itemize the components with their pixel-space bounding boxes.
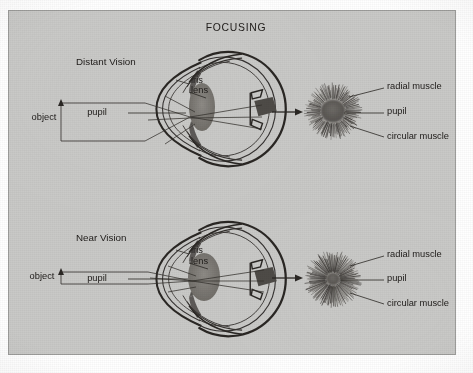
object-marker-distant	[58, 99, 145, 141]
label-pupil-front-distant: pupil	[387, 106, 407, 116]
callout-circular-muscle-near: circular muscle	[350, 293, 449, 308]
label-pupil-front-near: pupil	[387, 273, 407, 283]
transfer-arrow-distant	[272, 109, 303, 116]
pupil-shape-distant	[321, 100, 346, 123]
figure-title: FOCUSING	[206, 22, 266, 33]
section-label-near-vision: Near Vision	[76, 232, 126, 243]
iris-front-view-distant	[304, 83, 362, 140]
label-object-distant: object	[32, 112, 57, 122]
transfer-arrow-near	[272, 275, 303, 282]
eye-cross-section-distant	[156, 52, 285, 166]
pupil-shape-near	[326, 273, 340, 286]
callout-pupil-distant: pupil	[87, 107, 186, 117]
label-circular-muscle-near: circular muscle	[387, 298, 449, 308]
label-iris-distant: iris	[191, 75, 203, 85]
callout-radial-muscle-near: radial muscle	[350, 249, 442, 266]
label-radial-muscle-near: radial muscle	[387, 249, 442, 259]
label-object-near: object	[30, 271, 55, 281]
label-radial-muscle-distant: radial muscle	[387, 81, 442, 91]
label-iris-near: iris	[191, 245, 203, 255]
section-label-distant-vision: Distant Vision	[76, 56, 136, 67]
diagram-canvas: FOCUSING Distant Vision	[0, 0, 473, 373]
label-circular-muscle-distant: circular muscle	[387, 131, 449, 141]
label-pupil-near: pupil	[87, 273, 107, 283]
label-lens-near: lens	[191, 256, 208, 266]
callout-circular-muscle-distant: circular muscle	[350, 126, 449, 141]
label-lens-distant: lens	[191, 85, 208, 95]
figure-root: FOCUSING Distant Vision	[0, 0, 473, 373]
callout-radial-muscle-distant: radial muscle	[349, 81, 442, 97]
panel-near-vision: Near Vision	[30, 222, 449, 336]
label-pupil-distant: pupil	[87, 107, 107, 117]
panel-distant-vision: Distant Vision	[32, 52, 449, 166]
